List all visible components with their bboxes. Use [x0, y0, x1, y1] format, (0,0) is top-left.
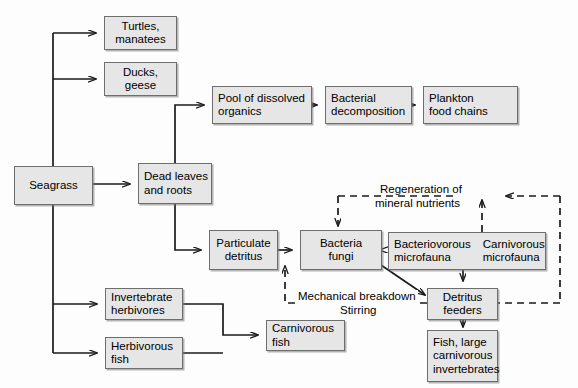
- node-carniv-fish-line-0: Carnivorous: [272, 322, 334, 336]
- node-fish-large-line-2: invertebrates: [433, 363, 499, 377]
- diagram-canvas: Seagrass Turtles, manatees Ducks, geese …: [0, 0, 578, 388]
- node-ducks-line-1: geese: [125, 79, 156, 93]
- node-carnivorous-microfauna: Carnivorous microfauna: [483, 238, 545, 265]
- node-plankton-line-1: food chains: [429, 105, 488, 119]
- node-pool-line-0: Pool of dissolved: [218, 92, 305, 106]
- edge-dead-leaves-to-particulate: [175, 203, 201, 250]
- node-particulate-line-0: Particulate: [216, 237, 270, 251]
- edge-label-mechanical-breakdown: Mechanical breakdown: [296, 290, 418, 304]
- node-dead-leaves-and-roots[interactable]: Dead leaves and roots: [138, 163, 212, 204]
- node-detritus-feeders-line-0: Detritus: [443, 291, 483, 305]
- node-particulate-line-1: detritus: [225, 250, 263, 264]
- node-invert-herb-line-1: herbivores: [111, 304, 165, 318]
- node-detritus-feeders[interactable]: Detritus feeders: [427, 288, 498, 320]
- node-bacteria-fungi[interactable]: Bacteria fungi: [300, 230, 382, 270]
- node-fish-large-carnivorous-invertebrates[interactable]: Fish, large carnivorous invertebrates: [427, 330, 498, 382]
- edge-label-regeneration-line-1: Regeneration of: [380, 183, 462, 197]
- node-pool-line-1: organics: [218, 105, 261, 119]
- node-dead-leaves-line-1: and roots: [144, 184, 192, 198]
- edge-dead-leaves-to-pool: [175, 105, 204, 163]
- node-microfauna2-line-1: microfauna: [483, 251, 545, 265]
- node-microfauna-group[interactable]: Bacteriovorous microfauna Carnivorous mi…: [388, 232, 546, 270]
- node-turtles-line-0: Turtles,: [122, 20, 160, 34]
- node-herb-fish-line-1: fish: [111, 353, 129, 367]
- node-particulate-detritus[interactable]: Particulate detritus: [209, 230, 278, 270]
- node-bacteria-fungi-line-1: fungi: [329, 250, 354, 264]
- node-bacterial-decomp-line-0: Bacterial: [331, 92, 376, 106]
- node-plankton-line-0: Plankton: [429, 92, 474, 106]
- node-plankton-food-chains[interactable]: Plankton food chains: [423, 86, 518, 124]
- node-microfauna1-line-0: Bacteriovorous: [394, 238, 471, 252]
- node-dead-leaves-line-0: Dead leaves: [144, 170, 208, 184]
- node-ducks-line-0: Ducks,: [123, 66, 158, 80]
- node-bacteria-fungi-line-0: Bacteria: [320, 237, 362, 251]
- node-invert-herb-line-0: Invertebrate: [111, 291, 172, 305]
- node-turtles-manatees[interactable]: Turtles, manatees: [104, 16, 177, 50]
- node-fish-large-line-0: Fish, large: [433, 336, 487, 350]
- edge-invert-herb-to-carniv-fish: [183, 304, 258, 335]
- node-microfauna2-line-0: Carnivorous: [483, 238, 545, 252]
- node-invertebrate-herbivores[interactable]: Invertebrate herbivores: [105, 288, 183, 320]
- node-carniv-fish-line-1: fish: [272, 336, 290, 350]
- node-microfauna1-line-1: microfauna: [394, 251, 471, 265]
- node-seagrass[interactable]: Seagrass: [14, 166, 93, 205]
- node-pool-of-dissolved-organics[interactable]: Pool of dissolved organics: [212, 86, 312, 124]
- node-seagrass-line-0: Seagrass: [29, 179, 78, 193]
- node-fish-large-line-1: carnivorous: [433, 349, 492, 363]
- node-herbivorous-fish[interactable]: Herbivorous fish: [105, 337, 183, 369]
- node-detritus-feeders-line-1: feeders: [443, 304, 481, 318]
- node-bacteriovorous-microfauna: Bacteriovorous microfauna: [394, 238, 471, 265]
- node-turtles-line-1: manatees: [115, 33, 166, 47]
- edge-label-stirring: Stirring: [338, 304, 378, 318]
- node-ducks-geese[interactable]: Ducks, geese: [104, 62, 177, 96]
- node-carnivorous-fish[interactable]: Carnivorous fish: [266, 320, 345, 351]
- node-bacterial-decomposition[interactable]: Bacterial decomposition: [325, 86, 412, 124]
- node-herb-fish-line-0: Herbivorous: [111, 340, 173, 354]
- edge-label-regeneration-line-2: mineral nutrients: [373, 197, 462, 211]
- node-bacterial-decomp-line-1: decomposition: [331, 105, 405, 119]
